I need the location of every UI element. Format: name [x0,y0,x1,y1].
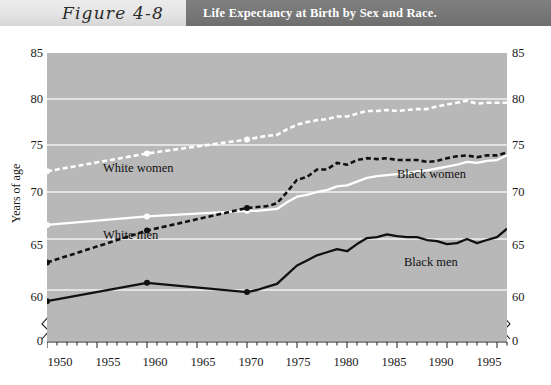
data-point-marker [47,222,50,228]
series-label-white-men: White men [103,228,158,243]
x-axis-ticks [47,341,509,353]
chart-svg [47,53,507,341]
y-tick-left-70: 70 [19,185,43,200]
y-tick-right-70: 70 [512,185,536,200]
x-tick-1975: 1975 [276,355,320,370]
data-point-marker [47,168,50,174]
y-tick-left-60: 60 [19,290,43,305]
figure-number-band: Figure 4-8 [0,0,186,26]
y-tick-left-65: 65 [19,238,43,253]
data-point-marker [144,213,150,219]
x-tick-1970: 1970 [229,355,273,370]
x-tick-1960: 1960 [133,355,177,370]
series-label-black-women: Black women [397,167,466,182]
y-tick-right-80: 80 [512,92,536,107]
series-layer [47,101,507,304]
figure-number-label: Figure 4-8 [62,3,164,23]
data-point-marker [244,205,250,211]
x-tick-1995: 1995 [467,355,511,370]
figure-title-band: Life Expectancy at Birth by Sex and Race… [186,0,551,26]
series-label-black-men: Black men [404,255,458,270]
data-point-marker [244,136,250,142]
figure-title: Life Expectancy at Birth by Sex and Race… [203,6,437,21]
data-point-marker [244,289,250,295]
y-tick-right-0: 0 [512,334,536,349]
y-tick-left-75: 75 [19,138,43,153]
x-tick-1965: 1965 [181,355,225,370]
y-tick-right-75: 75 [512,138,536,153]
x-tick-1980: 1980 [324,355,368,370]
plot-area [47,53,507,341]
data-point-marker [47,298,50,304]
x-tick-1950: 1950 [38,355,82,370]
y-tick-right-60: 60 [512,290,536,305]
data-point-marker [144,280,150,286]
y-tick-left-85: 85 [19,46,43,61]
x-tick-1985: 1985 [372,355,416,370]
series-label-white-women: White women [103,161,173,176]
y-tick-left-80: 80 [19,92,43,107]
x-tick-1955: 1955 [86,355,130,370]
x-tick-1990: 1990 [419,355,463,370]
y-tick-right-85: 85 [512,46,536,61]
figure-header: Figure 4-8 Life Expectancy at Birth by S… [0,0,551,26]
y-tick-right-65: 65 [512,238,536,253]
data-point-marker [144,150,150,156]
chart-figure: Years of age 85 80 75 70 65 60 0 85 80 7… [0,26,551,385]
